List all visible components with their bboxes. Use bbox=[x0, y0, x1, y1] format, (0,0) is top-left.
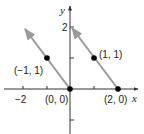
point-0-0 bbox=[67, 86, 73, 92]
point-label-2-0: (2, 0) bbox=[104, 94, 127, 105]
point-label-1-1: (1, 1) bbox=[99, 49, 122, 60]
x-axis-label: x bbox=[131, 92, 137, 104]
y-tick-label-2: 2 bbox=[62, 22, 68, 33]
point-2-0 bbox=[115, 86, 121, 92]
x-tick-label-neg2: −2 bbox=[15, 94, 27, 105]
point-1-1 bbox=[91, 55, 97, 61]
y-axis-label: y bbox=[59, 4, 65, 16]
point-label-neg1-1: (−1, 1) bbox=[14, 65, 43, 76]
point-label-0-0: (0, 0) bbox=[45, 94, 68, 105]
y-ticks bbox=[70, 27, 74, 120]
point-neg1-1 bbox=[44, 55, 50, 61]
chart-canvas: y x 2 −2 (−1, 1) (0, 0) (1, 1) (2, 0) bbox=[0, 0, 144, 134]
